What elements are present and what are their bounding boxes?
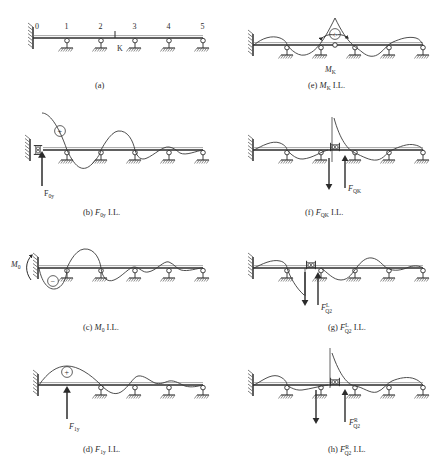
node-label-0: 0: [35, 22, 39, 31]
node-label-1: 1: [65, 22, 69, 31]
figure-background: [0, 0, 440, 473]
sign-symbol: +: [65, 368, 70, 377]
section-label-k: K: [117, 44, 123, 53]
hinge-at-k-icon: [333, 43, 338, 48]
sign-symbol: +: [58, 127, 63, 136]
panel-c-caption: (c) M0 I.L.: [83, 322, 119, 333]
node-label-5: 5: [201, 22, 205, 31]
panel-e-caption: (e) MK I.L.: [308, 80, 345, 91]
node-label-3: 3: [133, 22, 137, 31]
influence-line-figure: 0 1 2 3 4 5 K (a) + F0y (b) F0y: [0, 0, 440, 473]
panel-a-caption: (a): [95, 80, 105, 90]
node-label-2: 2: [99, 22, 103, 31]
sign-symbol: −: [50, 277, 55, 286]
node-label-4: 4: [167, 22, 171, 31]
